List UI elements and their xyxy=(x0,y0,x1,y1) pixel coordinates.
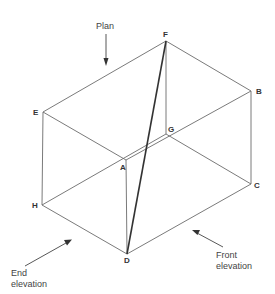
vertex-label-D: D xyxy=(124,256,130,265)
end-elevation-label-line1: End xyxy=(11,268,27,278)
edge-A-D xyxy=(126,160,127,254)
arrow-down-icon xyxy=(104,58,109,66)
vertex-label-G: G xyxy=(168,125,174,134)
diagonal-F-D xyxy=(127,41,166,254)
end-elevation-arrow xyxy=(25,240,72,267)
vertex-label-F: F xyxy=(163,30,168,39)
front-elevation-label-line2: elevation xyxy=(216,261,252,271)
vertex-label-E: E xyxy=(33,108,39,117)
edge-B-A xyxy=(126,91,251,160)
isometric-box-diagram: F B E G A C H D Plan End elevation Front… xyxy=(0,0,275,294)
front-elevation-arrow xyxy=(192,230,223,247)
edge-C-D xyxy=(127,184,251,254)
edge-E-F xyxy=(43,41,166,112)
front-elevation-label-line1: Front xyxy=(216,250,238,260)
edge-E-H xyxy=(42,112,43,205)
vertex-label-B: B xyxy=(256,87,262,96)
edge-D-H xyxy=(42,205,127,254)
edge-A-E xyxy=(43,112,126,160)
plan-label: Plan xyxy=(96,21,114,31)
plan-view-arrow xyxy=(104,34,109,66)
arrow-up-right-icon xyxy=(64,240,72,246)
vertex-label-C: C xyxy=(254,181,260,190)
vertex-label-A: A xyxy=(120,163,126,172)
end-elevation-label-line2: elevation xyxy=(11,279,47,289)
vertex-label-H: H xyxy=(32,201,38,210)
edge-G-C xyxy=(166,134,251,184)
edge-F-B xyxy=(166,41,251,91)
